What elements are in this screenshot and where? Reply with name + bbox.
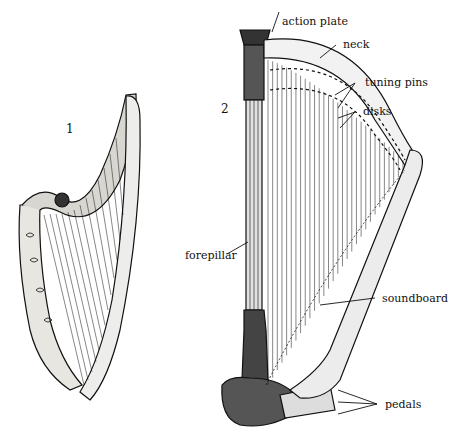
harp-1 bbox=[19, 94, 140, 400]
label-pedals: pedals bbox=[385, 399, 421, 410]
harp-illustrations bbox=[0, 0, 451, 441]
harp-2 bbox=[222, 30, 423, 426]
label-action-plate: action plate bbox=[282, 16, 348, 27]
label-tuning-pins: tuning pins bbox=[365, 77, 428, 88]
figure-1-number: 1 bbox=[66, 122, 74, 136]
figure-2-number: 2 bbox=[221, 102, 229, 116]
label-soundboard: soundboard bbox=[382, 293, 448, 304]
label-disks: disks bbox=[363, 106, 392, 117]
label-neck: neck bbox=[343, 39, 369, 50]
label-forepillar: forepillar bbox=[185, 250, 237, 261]
harp-diagram: 1 2 action plate neck tuning pins disks … bbox=[0, 0, 451, 441]
